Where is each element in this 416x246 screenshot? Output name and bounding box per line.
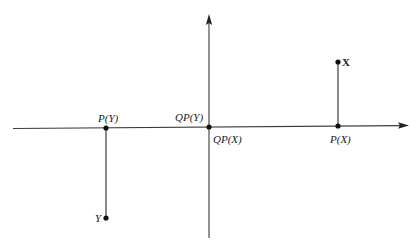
point-y	[103, 215, 108, 220]
label-p-x: P(X)	[329, 133, 351, 146]
point-qp	[206, 124, 211, 129]
point-p-x	[335, 123, 340, 128]
point-p-y	[103, 125, 108, 130]
label-y: Y	[95, 212, 103, 224]
projection-diagram: X Y P(Y) QP(Y) QP(X) P(X)	[0, 0, 416, 246]
label-qp-y: QP(Y)	[175, 111, 203, 124]
label-p-y: P(Y)	[97, 112, 119, 125]
label-qp-x: QP(X)	[213, 133, 242, 146]
point-x	[335, 59, 340, 64]
label-x: X	[342, 56, 350, 68]
